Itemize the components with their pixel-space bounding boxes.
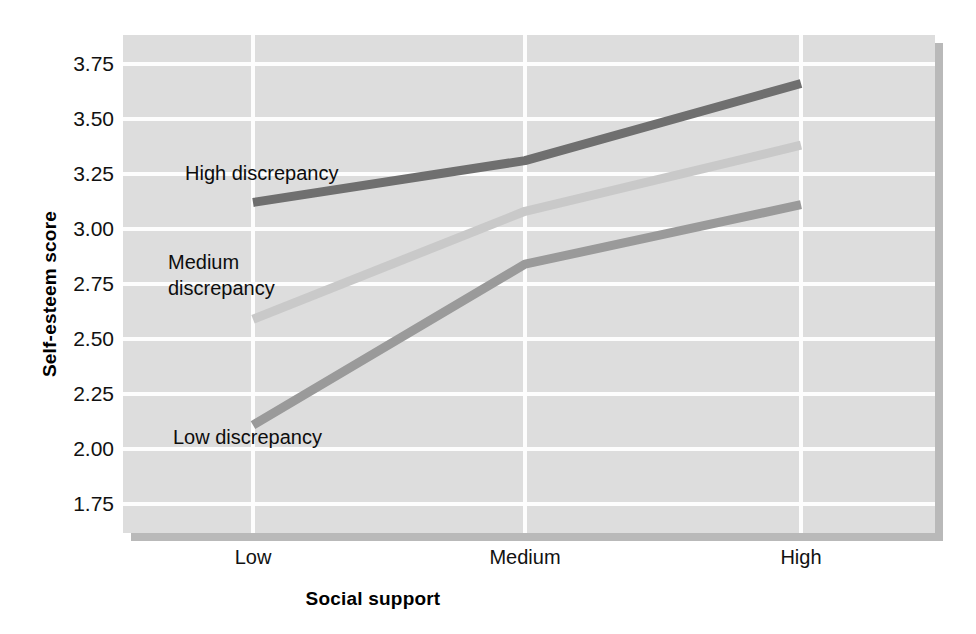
x-tick-label: Low — [235, 546, 272, 569]
plot-area: High discrepancyMedium discrepancyLow di… — [123, 35, 935, 533]
series-label-low-discrepancy: Low discrepancy — [173, 425, 322, 451]
y-axis-title: Self-esteem score — [39, 164, 61, 424]
y-tick-label: 3.75 — [38, 52, 114, 76]
series-line — [253, 205, 801, 425]
series-label-medium-discrepancy: Medium discrepancy — [168, 250, 275, 301]
x-axis-title: Social support — [123, 588, 623, 610]
x-tick-label: High — [780, 546, 821, 569]
y-tick-label: 1.75 — [38, 492, 114, 516]
x-tick-label: Medium — [489, 546, 560, 569]
y-tick-label: 2.00 — [38, 437, 114, 461]
series-label-high-discrepancy: High discrepancy — [185, 161, 338, 187]
y-tick-label: 3.50 — [38, 107, 114, 131]
chart-figure: High discrepancyMedium discrepancyLow di… — [0, 0, 976, 634]
